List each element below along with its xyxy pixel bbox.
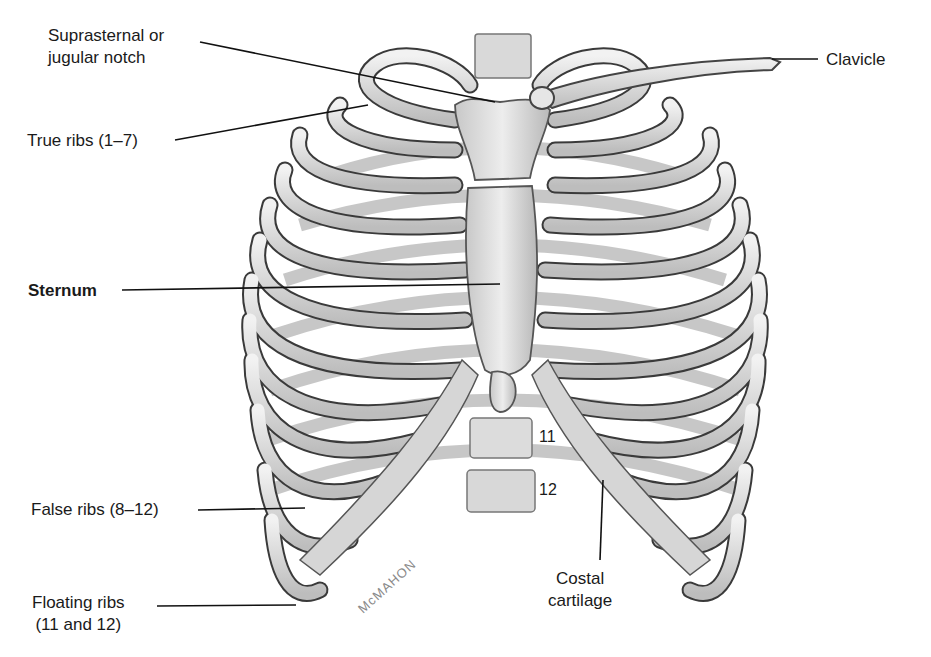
leader-sternum <box>122 284 500 290</box>
vertebra-label-12: 12 <box>539 481 557 499</box>
sternum <box>455 99 550 412</box>
label-floating-ribs: Floating ribs (11 and 12) <box>32 592 125 636</box>
label-costal-cartilage: Costal cartilage <box>548 568 612 612</box>
rib-cage-illustration <box>0 0 931 657</box>
label-costal-line1: Costal <box>548 568 612 590</box>
label-true-ribs: True ribs (1–7) <box>27 130 138 152</box>
leader-floating-ribs <box>157 605 296 606</box>
label-clavicle: Clavicle <box>826 49 886 71</box>
leader-costal-cartilage <box>600 480 603 560</box>
label-suprasternal-line1: Suprasternal or <box>48 25 164 47</box>
label-floating-ribs-line2: (11 and 12) <box>32 614 125 636</box>
leader-false-ribs <box>198 508 305 510</box>
label-sternum: Sternum <box>28 280 97 302</box>
label-costal-line2: cartilage <box>548 590 612 612</box>
label-false-ribs: False ribs (8–12) <box>31 499 159 521</box>
label-suprasternal-line2: jugular notch <box>48 47 164 69</box>
label-floating-ribs-line1: Floating ribs <box>32 592 125 614</box>
label-suprasternal-notch: Suprasternal or jugular notch <box>48 25 164 69</box>
vertebra-label-11: 11 <box>539 428 556 446</box>
